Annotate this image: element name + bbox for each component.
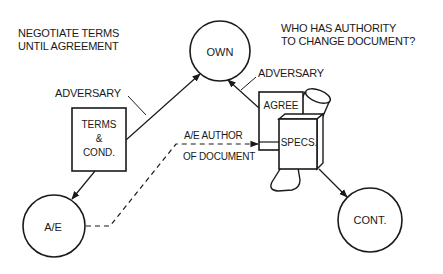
- note-authority-line2: TO CHANGE DOCUMENT?: [281, 35, 415, 48]
- ae-author-label-line2: OF DOCUMENT: [183, 150, 255, 163]
- adversary-left-label: ADVERSARY: [55, 87, 121, 100]
- specs-to-contractor-arrow: [319, 169, 347, 197]
- terms-label: TERMS: [72, 118, 126, 131]
- agree-to-owner-arrow: [228, 80, 259, 108]
- adversary-right-leader: [241, 77, 256, 90]
- contractor-label: CONT.: [354, 214, 387, 227]
- specs-label: SPECS.: [279, 136, 319, 149]
- adversary-right-label: ADVERSARY: [258, 67, 324, 80]
- adversary-left-leader: [128, 96, 146, 115]
- ae-author-label-line1: A/E AUTHOR: [184, 129, 243, 142]
- note-authority-line1: WHO HAS AUTHORITY: [281, 22, 396, 35]
- note-negotiate-line1: NEGOTIATE TERMS: [18, 27, 119, 40]
- ae-label: A/E: [44, 221, 62, 234]
- owner-label: OWN: [207, 46, 234, 59]
- conditions-label: COND.: [72, 146, 126, 159]
- agree-label: AGREE: [259, 99, 303, 112]
- terms-ampersand: &: [72, 132, 126, 145]
- terms-to-ae-arrow: [72, 171, 95, 199]
- note-negotiate-line2: UNTIL AGREEMENT: [18, 40, 119, 53]
